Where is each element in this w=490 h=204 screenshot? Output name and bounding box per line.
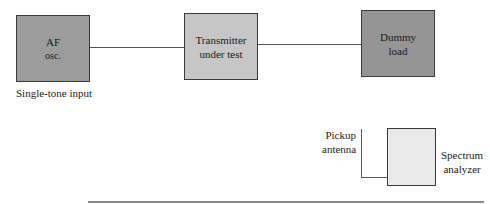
transmitter-block: Transmitter under test: [184, 13, 258, 80]
spectrum-analyzer-block: [387, 128, 436, 186]
antenna-wire-horizontal: [361, 177, 387, 178]
af-oscillator-label-line1: AF: [46, 35, 60, 49]
bottom-rule: [88, 201, 484, 203]
dummy-load-label-line1: Dummy: [380, 30, 416, 44]
connector-af-to-transmitter: [90, 47, 184, 48]
transmitter-label-line2: under test: [199, 47, 242, 61]
dummy-load-label-line2: load: [389, 44, 408, 58]
antenna-wire-vertical: [361, 129, 362, 178]
spectrum-analyzer-label-line2: analyzer: [441, 162, 483, 176]
transmitter-label-line1: Transmitter: [196, 33, 247, 47]
pickup-antenna-label-line2: antenna: [322, 142, 356, 156]
spectrum-analyzer-label: Spectrum analyzer: [441, 148, 483, 176]
connector-transmitter-to-load: [258, 44, 361, 45]
af-oscillator-label-line2: osc.: [45, 49, 61, 63]
af-caption: Single-tone input: [16, 86, 92, 100]
pickup-antenna-label: Pickup antenna: [322, 128, 356, 156]
pickup-antenna-label-line1: Pickup: [322, 128, 356, 142]
spectrum-analyzer-label-line1: Spectrum: [441, 148, 483, 162]
af-oscillator-block: AF osc.: [16, 15, 90, 82]
dummy-load-block: Dummy load: [361, 10, 435, 77]
